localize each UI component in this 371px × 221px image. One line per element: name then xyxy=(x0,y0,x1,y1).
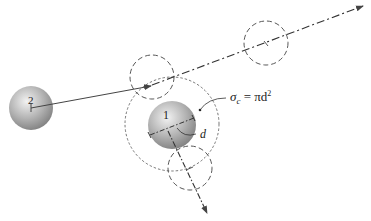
molecule-1-label: 1 xyxy=(163,108,169,122)
cross-section-pointer xyxy=(200,98,226,110)
formula-exponent: 2 xyxy=(267,89,271,98)
cross-section-formula: σc = πd2 xyxy=(230,89,271,106)
deflected-trajectory-upper xyxy=(152,6,363,85)
molecule-1-sphere xyxy=(148,101,196,149)
diameter-label: d xyxy=(200,127,207,141)
formula-rhs: = πd xyxy=(240,89,267,104)
collision-diagram: 2 1 d σc = πd2 xyxy=(0,0,371,221)
